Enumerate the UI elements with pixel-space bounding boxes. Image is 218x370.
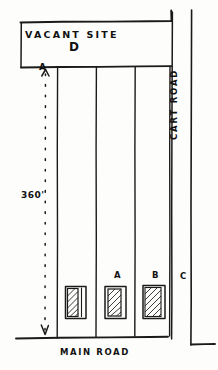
building-hatch-lines-1 [68, 289, 79, 317]
vacant-site-label: VACANT SITE [25, 29, 119, 40]
main-road-boundary [16, 337, 168, 339]
cart-road-right-edge [191, 10, 192, 345]
dimension-line-dashed [45, 74, 46, 330]
main-road-boundary-right [191, 344, 215, 345]
vacant-site-top-boundary [21, 11, 172, 23]
building-strip-a [105, 287, 126, 319]
plot-label-a: A [114, 270, 121, 280]
building-outline-1 [66, 287, 87, 319]
datum-point-label: A [39, 62, 47, 72]
cart-road-label: CART ROAD [169, 69, 179, 140]
vacant-site-plot-label: D [69, 40, 79, 54]
sketch-linework [0, 0, 218, 370]
cart-road-left-edge [172, 12, 173, 339]
main-road-label: MAIN ROAD [60, 347, 130, 357]
site-plan-sketch: VACANT SITE D A 360' A B C MAIN ROAD CAR… [0, 0, 218, 370]
building-hatch-lines-a [108, 289, 121, 316]
building-strip-b [143, 286, 165, 319]
plot-label-c: C [180, 271, 186, 281]
building-strip-1 [66, 287, 87, 319]
dimension-label: 360' [21, 190, 45, 200]
building-hatch-lines-b [145, 288, 161, 317]
plot-label-b: B [152, 270, 158, 280]
